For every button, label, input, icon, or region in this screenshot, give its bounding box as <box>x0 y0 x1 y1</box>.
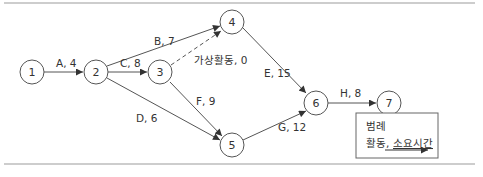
edge-dummy: 가상활동, 0 <box>171 31 247 66</box>
svg-text:3: 3 <box>157 66 164 79</box>
svg-text:7: 7 <box>386 97 393 110</box>
legend-duration: 소요시간 <box>393 137 433 149</box>
edge-a: A, 4 <box>44 57 83 72</box>
svg-text:2: 2 <box>93 66 100 79</box>
node-6: 6 <box>304 91 328 115</box>
edge-label-b: B, 7 <box>154 35 175 47</box>
node-1: 1 <box>20 60 44 84</box>
edge-label-g: G, 12 <box>278 121 306 133</box>
node-5: 5 <box>220 133 244 157</box>
edge-c: C, 8 <box>108 57 147 72</box>
edge-d: D, 6 <box>107 78 220 140</box>
edge-g: G, 12 <box>243 111 306 140</box>
edge-label-e: E, 15 <box>264 67 291 79</box>
edge-label-a: A, 4 <box>56 57 77 69</box>
node-2: 2 <box>84 60 108 84</box>
svg-text:5: 5 <box>229 139 236 152</box>
edge-label-h: H, 8 <box>340 87 361 99</box>
legend: 범례 활동, 소요시간 <box>356 113 438 158</box>
node-3: 3 <box>148 60 172 84</box>
node-7: 7 <box>377 91 401 115</box>
edge-label-f: F, 9 <box>196 95 215 107</box>
network-diagram: A, 4 B, 7 C, 8 D, 6 E, 15 F, 9 G, 12 H, … <box>0 0 483 177</box>
edge-label-d: D, 6 <box>136 112 158 124</box>
edge-label-dummy: 가상활동, 0 <box>194 54 247 66</box>
legend-activity: 활동, <box>366 137 389 149</box>
svg-text:6: 6 <box>313 97 320 110</box>
edge-label-c: C, 8 <box>120 57 141 69</box>
node-4: 4 <box>220 10 244 34</box>
edge-f: F, 9 <box>170 82 222 136</box>
legend-title: 범례 <box>366 120 386 132</box>
edge-h: H, 8 <box>328 87 376 103</box>
edge-e: E, 15 <box>243 28 306 93</box>
svg-text:4: 4 <box>229 16 236 29</box>
svg-text:1: 1 <box>29 66 36 79</box>
